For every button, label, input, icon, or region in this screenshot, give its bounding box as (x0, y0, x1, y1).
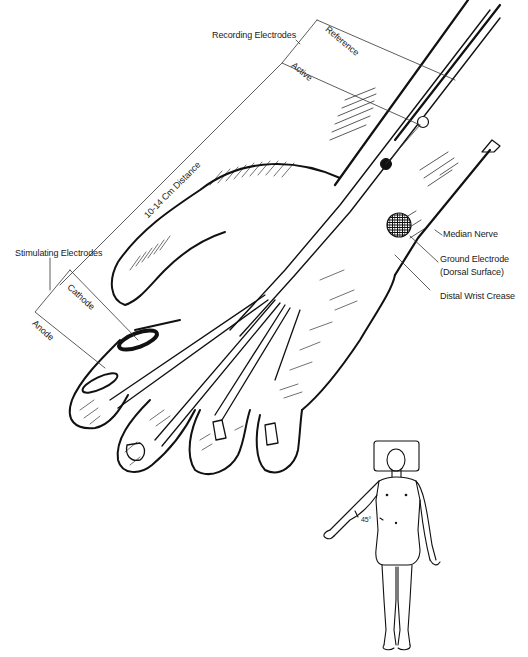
recording-electrodes-label: Recording Electrodes (212, 30, 296, 41)
dorsal-surface-label: (Dorsal Surface) (440, 267, 504, 278)
arm-angle-label: 45° (361, 514, 371, 525)
patient-figure (324, 441, 440, 650)
ground-electrode-label: Ground Electrode (440, 254, 509, 265)
stimulating-electrodes-label: Stimulating Electrodes (15, 248, 102, 259)
hand-hatching (80, 161, 357, 465)
distal-wrist-crease-label: Distal Wrist Crease (440, 291, 515, 302)
anode-ring-electrode (80, 370, 120, 397)
head (387, 449, 405, 471)
median-nerve-label: Median Nerve (443, 229, 498, 240)
pillow (374, 441, 419, 471)
ground-electrode (387, 213, 411, 237)
illustration (0, 0, 528, 657)
hand-outline (70, 164, 395, 474)
fingernails (127, 420, 278, 460)
median-nerve-path (230, 10, 500, 336)
median-nerve-conduction-diagram: Recording Electrodes Reference Active 10… (0, 0, 528, 657)
